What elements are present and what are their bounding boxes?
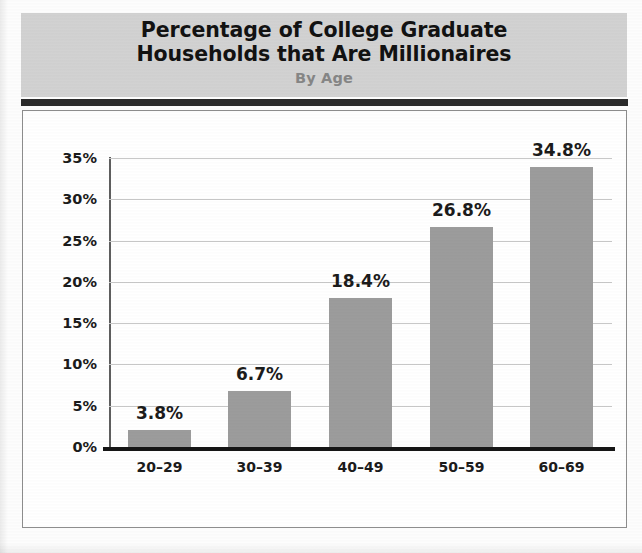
chart-subtitle: By Age xyxy=(295,70,353,86)
bar-group[interactable]: 26.8% xyxy=(430,158,493,447)
bar-value-label: 26.8% xyxy=(402,200,522,220)
page-edge-shadow-left xyxy=(0,0,8,553)
bar-value-label: 34.8% xyxy=(502,140,622,160)
chart-frame: 0%5%10%15%20%25%30%35% 3.8%6.7%18.4%26.8… xyxy=(22,110,627,528)
bar-group[interactable]: 6.7% xyxy=(228,158,291,447)
y-axis-tick-label: 30% xyxy=(62,191,97,207)
x-axis-line xyxy=(103,447,615,451)
y-axis-labels: 0%5%10%15%20%25%30%35% xyxy=(23,111,97,529)
page-edge-shadow-bottom xyxy=(0,543,642,553)
bar-value-label: 3.8% xyxy=(100,403,220,423)
scanned-page: Percentage of College Graduate Household… xyxy=(0,0,642,553)
bar-group[interactable]: 18.4% xyxy=(329,158,392,447)
y-axis-tick-label: 10% xyxy=(62,356,97,372)
y-axis-tick-label: 35% xyxy=(62,150,97,166)
bar-value-label: 18.4% xyxy=(301,271,421,291)
bar-group[interactable]: 3.8% xyxy=(128,158,191,447)
bar[interactable] xyxy=(530,167,593,447)
title-line-1: Percentage of College Graduate xyxy=(21,19,627,43)
bar[interactable] xyxy=(228,391,291,447)
header-divider-rule xyxy=(21,99,628,106)
title-line-2: Households that Are Millionaires xyxy=(21,43,627,67)
bar-group[interactable]: 34.8% xyxy=(530,158,593,447)
bar[interactable] xyxy=(430,227,493,447)
bar[interactable] xyxy=(329,298,392,447)
y-axis-tick-label: 0% xyxy=(72,439,97,455)
bar[interactable] xyxy=(128,430,191,447)
y-axis-tick-label: 15% xyxy=(62,315,97,331)
plot-area: 3.8%6.7%18.4%26.8%34.8% xyxy=(109,158,612,447)
y-axis-tick-label: 5% xyxy=(72,398,97,414)
y-axis-tick-label: 20% xyxy=(62,274,97,290)
page-title: Percentage of College Graduate Household… xyxy=(21,19,627,67)
y-axis-tick-label: 25% xyxy=(62,233,97,249)
chart-header-band: Percentage of College Graduate Household… xyxy=(21,13,627,97)
x-axis-labels: 20–2930–3940–4950–5960–69 xyxy=(109,459,612,489)
x-axis-category-label: 60–69 xyxy=(502,459,622,475)
bar-value-label: 6.7% xyxy=(200,364,320,384)
